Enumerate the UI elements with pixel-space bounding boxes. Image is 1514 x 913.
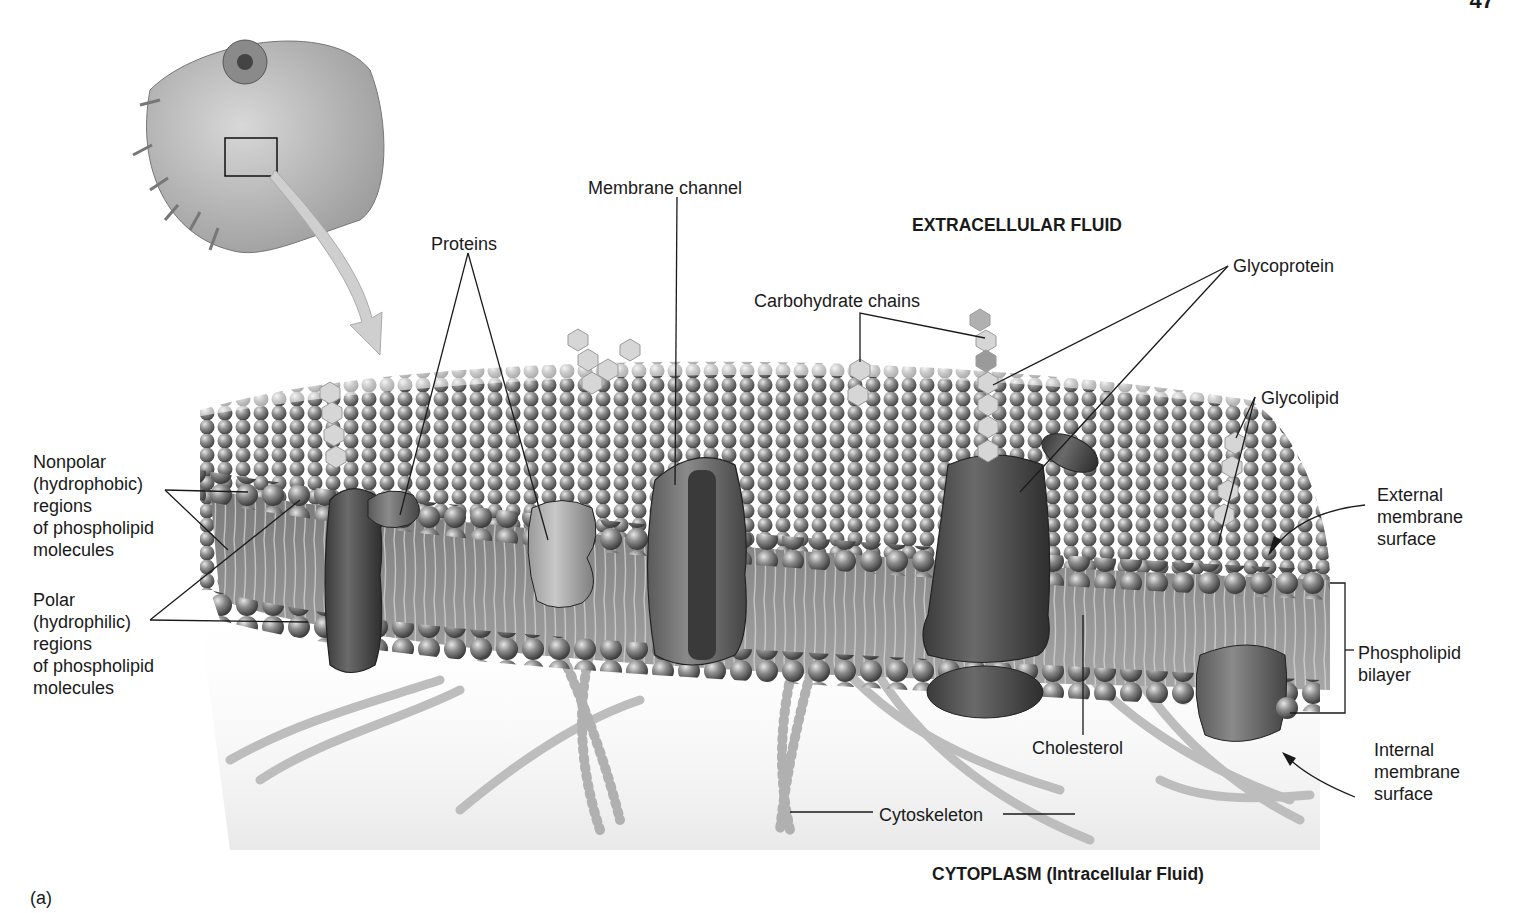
label-glycolipid: Glycolipid <box>1261 387 1339 409</box>
label-nonpolar-regions: Nonpolar (hydrophobic) regions of phosph… <box>33 451 154 561</box>
figure-tag: (a) <box>30 887 52 909</box>
protein-pale <box>528 501 596 608</box>
label-membrane-channel: Membrane channel <box>588 177 742 199</box>
label-external-membrane-surface: External membrane surface <box>1377 484 1463 550</box>
label-cholesterol: Cholesterol <box>1032 737 1123 759</box>
label-internal-membrane-surface: Internal membrane surface <box>1374 739 1460 805</box>
label-polar-regions: Polar (hydrophilic) regions of phospholi… <box>33 589 154 699</box>
region-cytoplasm: CYTOPLASM (Intracellular Fluid) <box>932 863 1204 885</box>
membrane-illustration <box>0 0 1514 913</box>
peripheral-protein-right <box>1196 645 1287 741</box>
region-extracellular-fluid: EXTRACELLULAR FLUID <box>912 214 1122 236</box>
peripheral-protein-small <box>368 491 419 528</box>
peripheral-protein-dark <box>927 666 1043 718</box>
cell-inset-illustration <box>133 40 384 355</box>
page-number: 47 <box>1470 0 1494 14</box>
label-glycoprotein: Glycoprotein <box>1233 255 1334 277</box>
label-proteins: Proteins <box>431 233 497 255</box>
label-carbohydrate-chains: Carbohydrate chains <box>754 290 920 312</box>
label-cytoskeleton: Cytoskeleton <box>879 804 983 826</box>
label-phospholipid-bilayer: Phospholipid bilayer <box>1358 642 1461 686</box>
